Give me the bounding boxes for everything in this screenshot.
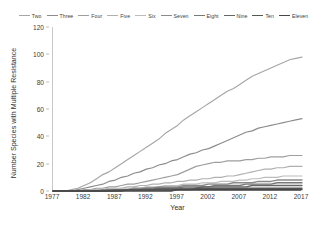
y-tick-mark [46, 191, 49, 192]
series-lines [53, 27, 302, 191]
y-tick-label: 40 [37, 133, 44, 140]
x-tick-label: 1977 [45, 193, 60, 201]
y-tick-mark [46, 81, 49, 82]
y-tick-label: 120 [33, 24, 44, 31]
legend-item-six[interactable]: Six [135, 13, 155, 19]
legend-item-ten[interactable]: Ten [252, 13, 274, 19]
y-tick-mark [46, 109, 49, 110]
legend-line-icon [107, 15, 118, 16]
legend-item-five[interactable]: Five [107, 13, 130, 19]
legend-line-icon [279, 15, 290, 16]
series-line-two [53, 57, 302, 191]
legend-item-label: Eight [207, 13, 219, 19]
legend-line-icon [252, 15, 263, 16]
legend-line-icon [135, 15, 146, 16]
legend-line-icon [78, 15, 89, 16]
x-tick-label: 2002 [200, 193, 215, 201]
x-tick-label: 1982 [76, 193, 91, 201]
legend-line-icon [194, 15, 205, 16]
legend-line-icon [47, 15, 58, 16]
chart-legend: TwoThreeFourFiveSixSevenEightNineTenElev… [0, 9, 327, 22]
legend-item-label: Ten [265, 13, 274, 19]
legend-item-two[interactable]: Two [19, 13, 42, 19]
y-axis-title: Number Species with Multiple Resistance [10, 33, 18, 193]
legend-item-label: Nine [237, 13, 248, 19]
legend-item-eight[interactable]: Eight [194, 13, 219, 19]
legend-item-seven[interactable]: Seven [161, 13, 189, 19]
y-tick-mark [46, 163, 49, 164]
y-tick-label: 60 [37, 106, 44, 113]
x-tick-label: 1987 [107, 193, 122, 201]
chart-container: TwoThreeFourFiveSixSevenEightNineTenElev… [0, 0, 327, 228]
x-tick-label: 2012 [263, 193, 278, 201]
legend-item-four[interactable]: Four [78, 13, 102, 19]
legend-item-label: Two [32, 13, 42, 19]
y-tick-label: 20 [37, 160, 44, 167]
series-line-three [53, 119, 302, 191]
legend-line-icon [161, 15, 172, 16]
legend-item-label: Three [60, 13, 74, 19]
legend-item-eleven[interactable]: Eleven [279, 13, 308, 19]
legend-item-label: Seven [174, 13, 189, 19]
legend-line-icon [19, 15, 30, 16]
legend-item-label: Six [148, 13, 155, 19]
y-tick-label: 100 [33, 51, 44, 58]
legend-item-label: Eleven [292, 13, 308, 19]
y-tick-mark [46, 27, 49, 28]
x-axis-title: Year [0, 204, 327, 213]
y-tick-label: 80 [37, 78, 44, 85]
legend-line-icon [224, 15, 235, 16]
y-tick-mark [46, 136, 49, 137]
legend-item-three[interactable]: Three [47, 13, 74, 19]
plot-area [52, 27, 301, 191]
x-tick-label: 2007 [231, 193, 246, 201]
x-tick-label: 1992 [138, 193, 153, 201]
y-tick-label: 0 [40, 188, 44, 195]
x-axis-title-label: Year [142, 204, 184, 212]
x-tick-label: 2017 [294, 193, 309, 201]
y-axis-ticks: 120100806040200 [0, 27, 49, 191]
y-tick-mark [46, 54, 49, 55]
x-tick-label: 1997 [169, 193, 184, 201]
legend-item-label: Five [120, 13, 130, 19]
legend-item-nine[interactable]: Nine [224, 13, 248, 19]
legend-item-label: Four [91, 13, 102, 19]
